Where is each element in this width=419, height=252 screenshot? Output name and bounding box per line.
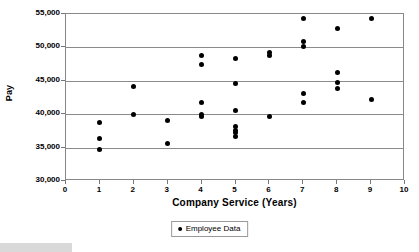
data-point [131,84,136,89]
plot-area [65,13,404,180]
data-point [199,62,204,67]
data-point [335,80,340,85]
data-point [97,136,102,141]
x-axis-tick-mark [65,180,66,184]
data-point [335,86,340,91]
x-axis-tick-label: 8 [326,185,346,194]
data-point [267,114,272,119]
y-axis-tick-label: 45,000 [24,76,60,84]
data-point [369,97,374,102]
data-point [199,114,204,119]
x-axis-tick-mark [99,180,100,184]
x-axis-tick-label: 5 [225,185,245,194]
data-point [199,100,204,105]
data-point [165,118,170,123]
y-axis-tick-label: 50,000 [24,42,60,50]
x-axis-tick-label: 7 [292,185,312,194]
y-axis-tick-label: 40,000 [24,109,60,117]
y-axis-tick-label: 30,000 [24,176,60,184]
gridline [66,148,403,149]
data-point [369,16,374,21]
legend-marker-dot-icon [178,227,182,231]
x-axis-tick-mark [404,180,405,184]
footer-artifact-strip [0,243,72,252]
gridline [66,47,403,48]
x-axis-tick-label: 2 [123,185,143,194]
x-axis-tick-label: 6 [258,185,278,194]
x-axis-tick-mark [302,180,303,184]
y-axis-tick-mark [61,13,65,14]
x-axis-tick-label: 0 [55,185,75,194]
data-point [233,81,238,86]
legend-entry-label: Employee Data [186,224,241,233]
x-axis-tick-mark [336,180,337,184]
y-axis-tick-mark [61,80,65,81]
y-axis-tick-labels: 30,00035,00040,00045,00050,00055,000 [22,0,60,252]
x-axis-tick-mark [268,180,269,184]
data-point [301,44,306,49]
data-point [335,26,340,31]
x-axis-tick-mark [201,180,202,184]
data-point [97,120,102,125]
data-point [301,16,306,21]
x-axis-tick-mark [235,180,236,184]
data-point [301,91,306,96]
y-axis-tick-mark [61,147,65,148]
data-point [199,53,204,58]
x-axis-tick-mark [167,180,168,184]
data-point [267,53,272,58]
data-point [301,100,306,105]
x-axis-tick-label: 4 [191,185,211,194]
data-point [131,112,136,117]
y-axis-title: Pay [4,70,14,116]
data-point [165,141,170,146]
y-axis-tick-label: 55,000 [24,9,60,17]
x-axis-tick-label: 9 [360,185,380,194]
x-axis-title: Company Service (Years) [65,197,404,208]
x-axis-tick-label: 3 [157,185,177,194]
gridline [66,114,403,115]
x-axis-tick-mark [133,180,134,184]
data-point [233,134,238,139]
x-axis-tick-mark [370,180,371,184]
y-axis-tick-label: 35,000 [24,143,60,151]
data-point [233,56,238,61]
data-point [97,147,102,152]
data-point [233,108,238,113]
scatter-chart: Pay 30,00035,00040,00045,00050,00055,000… [0,0,419,252]
y-axis-tick-mark [61,46,65,47]
x-axis-tick-label: 10 [394,185,414,194]
chart-legend: Employee Data [171,221,249,237]
x-axis-tick-label: 1 [89,185,109,194]
y-axis-tick-mark [61,113,65,114]
data-point [335,70,340,75]
